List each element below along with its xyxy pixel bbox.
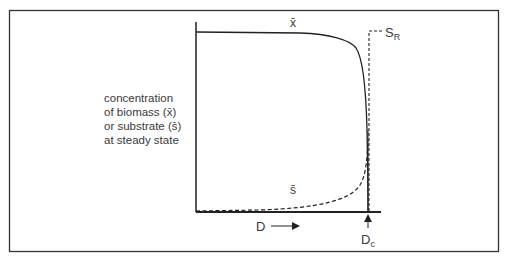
reservoir-label: SR [385, 25, 401, 42]
y-axis-label-line3: or substrate (s̄) [104, 120, 181, 132]
figure-frame [10, 11, 499, 252]
biomass-curve [196, 32, 368, 212]
substrate-curve-label: s̄ [290, 183, 296, 197]
biomass-curve-label: x̄ [290, 16, 296, 30]
y-axis-label-line4: at steady state [104, 134, 179, 146]
y-axis-label-line1: concentration [104, 92, 173, 104]
reservoir-substrate-line [369, 31, 382, 212]
diagram-canvas: concentration of biomass (x̄) or substra… [0, 0, 508, 258]
critical-dilution-label: Dc [361, 232, 375, 249]
substrate-curve [196, 140, 368, 211]
y-axis-label-line2: of biomass (x̄) [104, 106, 176, 118]
x-axis-label: D [256, 219, 265, 234]
